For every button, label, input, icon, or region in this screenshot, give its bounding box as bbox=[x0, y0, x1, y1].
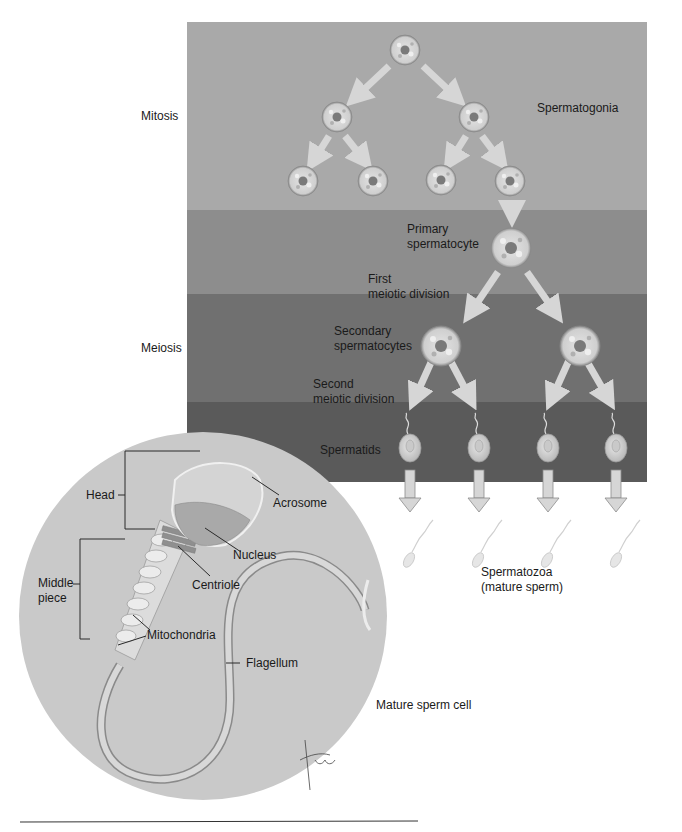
label-spermatozoa-line2: (mature sperm) bbox=[481, 580, 563, 595]
label-spermatogonia: Spermatogonia bbox=[537, 101, 618, 116]
label-middle-piece: Middle piece bbox=[38, 576, 73, 606]
label-centriole: Centriole bbox=[192, 578, 240, 593]
label-secondary-line1: Secondary bbox=[334, 324, 412, 339]
label-secondary-spermatocytes: Secondary spermatocytes bbox=[334, 324, 412, 354]
secondary-spermatocyte-cell bbox=[560, 326, 600, 366]
primary-spermatocyte-cell bbox=[491, 228, 531, 268]
label-first-meiotic-division: First meiotic division bbox=[368, 272, 449, 302]
label-primary-line1: Primary bbox=[407, 222, 479, 237]
label-spermatozoa-line1: Spermatozoa bbox=[481, 565, 563, 580]
spermatozoa bbox=[401, 520, 640, 569]
label-primary-spermatocyte: Primary spermatocyte bbox=[407, 222, 479, 252]
label-spermatozoa: Spermatozoa (mature sperm) bbox=[481, 565, 563, 595]
label-middle-line1: Middle bbox=[38, 576, 73, 591]
label-nucleus: Nucleus bbox=[233, 548, 276, 563]
label-flagellum: Flagellum bbox=[246, 656, 298, 671]
label-meiosis: Meiosis bbox=[141, 341, 182, 356]
label-middle-line2: piece bbox=[38, 591, 73, 606]
label-acrosome: Acrosome bbox=[273, 496, 327, 511]
spermatogenesis-figure bbox=[0, 0, 682, 832]
label-head: Head bbox=[86, 488, 115, 503]
label-second-meiotic-division: Second meiotic division bbox=[313, 377, 394, 407]
label-mitochondria: Mitochondria bbox=[147, 628, 216, 643]
label-mature-sperm-cell: Mature sperm cell bbox=[376, 698, 471, 713]
secondary-spermatocyte-cell bbox=[421, 326, 461, 366]
stage-bands bbox=[187, 22, 647, 482]
label-second-line1: Second bbox=[313, 377, 394, 392]
mature-sperm-cell-illustration bbox=[19, 432, 387, 800]
label-spermatids: Spermatids bbox=[320, 443, 381, 458]
label-first-line2: meiotic division bbox=[368, 287, 449, 302]
label-mitosis: Mitosis bbox=[141, 109, 178, 124]
label-second-line2: meiotic division bbox=[313, 392, 394, 407]
label-secondary-line2: spermatocytes bbox=[334, 339, 412, 354]
bottom-rule bbox=[20, 821, 418, 822]
label-first-line1: First bbox=[368, 272, 449, 287]
label-primary-line2: spermatocyte bbox=[407, 237, 479, 252]
